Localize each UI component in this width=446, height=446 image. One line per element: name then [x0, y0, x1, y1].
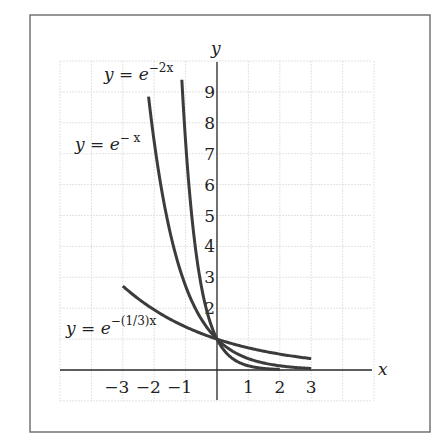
x-tick-label: 2 — [274, 377, 285, 397]
y-tick-label: 4 — [204, 236, 215, 256]
y-tick-label: 5 — [204, 206, 215, 226]
curve — [149, 97, 312, 369]
y-axis-label: y — [210, 38, 221, 58]
label-e-third-x: y = e−(1/3)x — [65, 314, 156, 338]
x-tick-labels: −3−2−1123 — [104, 377, 316, 397]
label-e-2x: y = e−2x — [103, 61, 173, 84]
y-tick-label: 8 — [204, 113, 215, 133]
x-tick-label: −1 — [167, 377, 192, 397]
x-tick-label: 3 — [306, 377, 317, 397]
y-tick-label: 6 — [204, 175, 215, 195]
y-tick-label: 3 — [204, 267, 215, 287]
y-tick-label: 7 — [204, 144, 215, 164]
x-axis-label: x — [378, 359, 388, 379]
curve — [182, 80, 280, 370]
x-tick-label: −2 — [136, 377, 161, 397]
x-tick-label: 1 — [243, 377, 254, 397]
exponential-decay-chart: x y −3−2−1123 23456789 y = e−2x y = e− x… — [0, 0, 446, 446]
y-tick-label: 9 — [204, 82, 215, 102]
x-tick-label: −3 — [104, 377, 129, 397]
y-tick-labels: 23456789 — [204, 82, 215, 318]
label-e-x: y = e− x — [74, 131, 141, 154]
